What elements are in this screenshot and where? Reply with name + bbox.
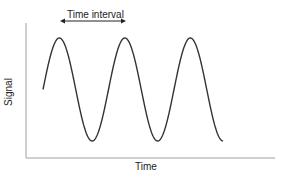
arrow-left-icon: [60, 19, 65, 24]
signal-diagram: [0, 0, 290, 179]
y-axis-label: Signal: [3, 78, 14, 106]
signal-wave: [43, 38, 223, 141]
x-axis-label: Time: [135, 161, 157, 172]
interval-label: Time interval: [67, 9, 124, 20]
